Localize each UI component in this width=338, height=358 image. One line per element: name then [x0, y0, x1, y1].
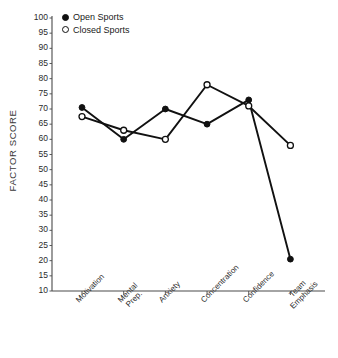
- data-point-closed-sports: [121, 127, 127, 133]
- data-point-open-sports: [121, 136, 127, 142]
- data-point-open-sports: [204, 121, 210, 127]
- series-line-open-sports: [82, 100, 290, 259]
- plot-area: [0, 0, 338, 358]
- data-point-open-sports: [288, 256, 294, 262]
- chart-figure: FACTOR SCORE 100959085807570656055504540…: [0, 0, 338, 358]
- data-point-open-sports: [79, 105, 85, 111]
- data-point-closed-sports: [79, 114, 85, 120]
- data-point-closed-sports: [287, 142, 293, 148]
- data-point-open-sports: [162, 106, 168, 112]
- data-point-closed-sports: [246, 103, 252, 109]
- data-point-open-sports: [246, 97, 252, 103]
- data-point-closed-sports: [204, 82, 210, 88]
- data-point-closed-sports: [162, 136, 168, 142]
